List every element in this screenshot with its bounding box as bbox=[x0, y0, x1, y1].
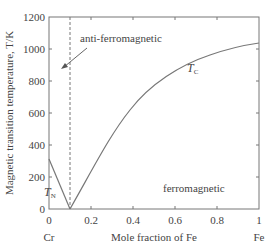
y-tick-400: 400 bbox=[29, 139, 46, 151]
x-tick-0.2: 0.2 bbox=[84, 214, 98, 226]
fe-label: Fe bbox=[254, 231, 265, 243]
phase-diagram: 0 200 400 600 800 1000 1200 0 0.2 0.4 0.… bbox=[0, 0, 268, 246]
arrow-line bbox=[64, 48, 87, 67]
tc-label: TC bbox=[187, 61, 199, 76]
x-tick-0.4: 0.4 bbox=[126, 214, 140, 226]
plot-frame bbox=[49, 17, 259, 209]
x-tick-0: 0 bbox=[46, 214, 52, 226]
y-axis-label: Magnetic transition temperature, T/K bbox=[3, 31, 15, 195]
y-tick-labels: 0 200 400 600 800 1000 1200 bbox=[23, 11, 46, 215]
cr-label: Cr bbox=[44, 231, 55, 243]
y-tick-1200: 1200 bbox=[23, 11, 46, 23]
y-tick-1000: 1000 bbox=[23, 43, 46, 55]
antiferromagnetic-label: anti-ferromagnetic bbox=[80, 32, 162, 44]
x-axis-label: Mole fraction of Fe bbox=[111, 231, 197, 243]
y-tick-200: 200 bbox=[29, 171, 46, 183]
x-tick-0.6: 0.6 bbox=[168, 214, 182, 226]
y-tick-600: 600 bbox=[29, 107, 46, 119]
y-tick-800: 800 bbox=[29, 75, 46, 87]
tn-curve bbox=[49, 159, 70, 209]
arrow-head-icon bbox=[61, 63, 68, 69]
tn-label: TN bbox=[44, 185, 56, 200]
x-tick-labels: 0 0.2 0.4 0.6 0.8 1 bbox=[46, 214, 262, 226]
ferromagnetic-label: ferromagnetic bbox=[163, 182, 225, 194]
x-tick-1: 1 bbox=[256, 214, 262, 226]
x-tick-0.8: 0.8 bbox=[210, 214, 224, 226]
y-ticks bbox=[49, 17, 259, 209]
y-tick-0: 0 bbox=[40, 203, 46, 215]
